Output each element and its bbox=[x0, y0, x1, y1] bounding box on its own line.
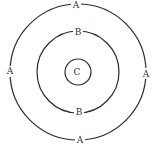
label-outer-bottom: A bbox=[76, 135, 84, 145]
label-middle-bottom: B bbox=[76, 107, 83, 117]
label-inner-center: C bbox=[74, 67, 81, 77]
label-outer-right: A bbox=[142, 69, 150, 79]
label-outer-top: A bbox=[72, 0, 80, 10]
concentric-circles-diagram: A A A A B B C bbox=[0, 0, 155, 152]
label-middle-top: B bbox=[75, 27, 82, 37]
label-outer-left: A bbox=[6, 66, 14, 76]
